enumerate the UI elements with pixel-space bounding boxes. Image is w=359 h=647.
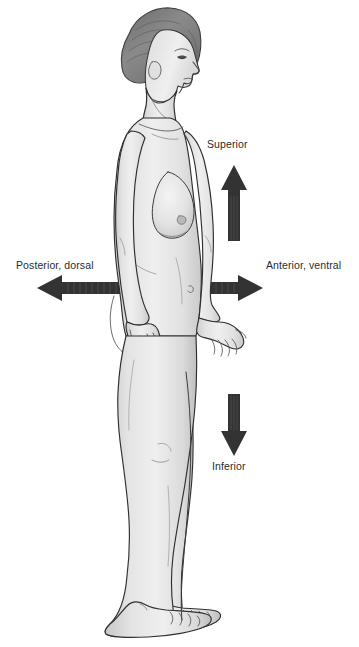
posterior-arrow <box>37 275 121 301</box>
superior-arrow <box>221 165 247 241</box>
directional-arrows-front <box>221 165 247 456</box>
anatomical-directional-diagram: Superior Inferior Posterior, dorsal Ante… <box>0 0 359 647</box>
near-leg <box>105 336 196 637</box>
far-hand <box>197 318 244 349</box>
body-figure-illustration <box>0 0 359 647</box>
anterior-arrow <box>204 275 263 301</box>
female-body-lateral-view <box>105 8 246 637</box>
inferior-arrow <box>221 394 247 456</box>
ear <box>149 61 161 79</box>
label-inferior: Inferior <box>212 461 245 472</box>
label-posterior-dorsal: Posterior, dorsal <box>16 260 94 271</box>
nipple <box>177 216 186 225</box>
label-superior: Superior <box>207 139 248 150</box>
label-anterior-ventral: Anterior, ventral <box>266 260 341 271</box>
